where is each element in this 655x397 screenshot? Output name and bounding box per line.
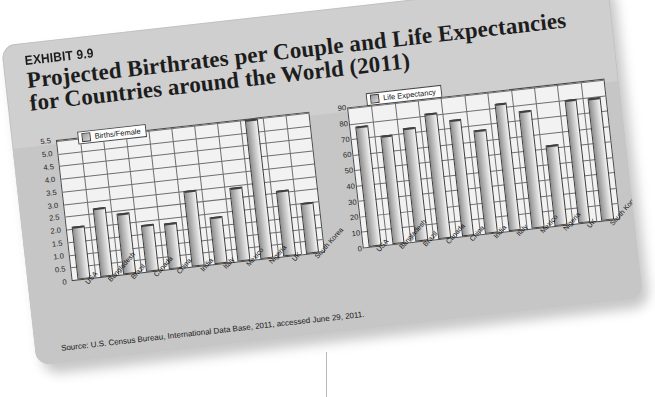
y-tick-label: 50 [344,166,353,176]
bar-usa [72,225,90,280]
page-gutter-rule [326,352,327,397]
exhibit-screenshot: EXHIBIT 9.9 Projected Birthrates per Cou… [0,0,655,397]
bar-bangladesh [93,207,113,277]
x-label-slot: South Korea [302,253,330,301]
exhibit-card: EXHIBIT 9.9 Projected Birthrates per Cou… [1,0,655,383]
y-tick-label: 0 [62,277,67,286]
y-tick-label: 1.0 [53,252,64,262]
bar-italy [210,216,228,264]
bar-mexico [230,187,251,262]
bar-india [184,189,205,266]
y-tick-label: 0.5 [54,264,65,274]
y-tick-label: 5.5 [40,136,51,146]
y-tick-label: 3.5 [46,187,57,197]
y-tick-label: 40 [346,181,355,191]
y-tick-label: 5.0 [41,149,52,159]
x-label-slot: South Korea [597,220,626,268]
y-tick-label: 30 [348,197,357,207]
y-tick-label: 4.0 [44,175,55,185]
y-tick-label: 20 [350,213,359,223]
legend-swatch-icon [370,94,380,104]
chart-life-expectancy: 0102030405060708090 Life Expectancy USAB… [320,70,627,297]
y-tick-label: 80 [339,119,348,129]
y-tick-label: 1.5 [52,239,63,249]
y-tick-label: 70 [341,134,350,144]
bar-nigeria [546,144,568,226]
y-tick-label: 4.5 [43,162,54,172]
chart-births-per-female: 00.51.01.52.02.53.03.54.04.55.05.5 Birth… [25,103,332,330]
y-tick-label: 60 [343,150,352,160]
plot-area-right [347,79,620,249]
y-tick-label: 10 [351,228,360,238]
y-tick-label: 2.5 [49,213,60,223]
y-tick-label: 90 [337,103,346,113]
y-tick-label: 3.0 [47,200,58,210]
bar-series-right [348,80,619,248]
y-tick-label: 2.0 [50,226,61,236]
legend-swatch-icon [81,132,91,142]
bar-south-korea [301,202,319,254]
